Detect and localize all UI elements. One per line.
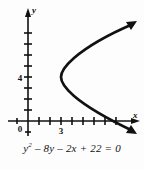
caption-term-minus-8y: – 8y <box>35 142 54 154</box>
y-tick-label-4: 4 <box>18 73 23 83</box>
caption-term-plus-22: + 22 <box>80 142 102 154</box>
x-tick-label-3: 3 <box>59 126 64 136</box>
coordinate-plot: y x 0 4 3 <box>0 0 144 144</box>
origin-tick-label: 0 <box>18 124 23 134</box>
x-axis-label: x <box>132 110 138 120</box>
caption-term-minus-2x: – 2x <box>57 142 76 154</box>
y-axis-label: y <box>31 5 37 15</box>
parabola-figure: y x 0 4 3 y2 – 8y – 2x + 22 = 0 <box>0 0 144 169</box>
y-axis-arrowhead-icon <box>25 8 31 17</box>
equation-caption: y2 – 8y – 2x + 22 = 0 <box>0 142 144 154</box>
caption-equals-zero: = 0 <box>105 142 121 154</box>
parabola-curve <box>61 24 133 131</box>
